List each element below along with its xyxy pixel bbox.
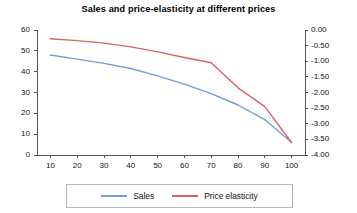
x-axis-tick-label: 30 — [91, 161, 117, 170]
chart-container: Sales and price-elasticity at different … — [0, 0, 357, 213]
y-axis-left-tick-label: 30 — [6, 88, 30, 97]
y-axis-right-tick-label: -2.50 — [311, 103, 345, 112]
y-axis-right-tick-label: 0.00 — [311, 25, 345, 34]
legend-item[interactable]: Sales — [101, 191, 154, 201]
chart-legend: SalesPrice elasticity — [66, 184, 293, 208]
x-axis-tick-label: 60 — [171, 161, 197, 170]
y-axis-right-tick-label: -0.50 — [311, 41, 345, 50]
x-axis-tick-label: 20 — [64, 161, 90, 170]
y-axis-right-tick-label: -2.00 — [311, 88, 345, 97]
y-axis-left-tick-label: 0 — [6, 150, 30, 159]
legend-swatch-icon — [101, 195, 127, 197]
x-axis-tick-label: 90 — [252, 161, 278, 170]
y-axis-right-tick-label: -3.00 — [311, 119, 345, 128]
x-axis-tick-label: 100 — [279, 161, 305, 170]
legend-label: Price elasticity — [204, 191, 258, 201]
x-axis-tick-label: 80 — [225, 161, 251, 170]
x-axis-tick-label: 10 — [37, 161, 63, 170]
x-axis-tick-label: 50 — [145, 161, 171, 170]
series-line-price-elasticity — [50, 39, 291, 143]
series-line-sales — [50, 55, 291, 143]
y-axis-right-tick-label: -4.00 — [311, 150, 345, 159]
series-group — [50, 39, 291, 143]
y-axis-left-tick-label: 10 — [6, 129, 30, 138]
legend-item[interactable]: Price elasticity — [172, 191, 258, 201]
axes-group — [34, 30, 308, 158]
y-axis-left-tick-label: 40 — [6, 67, 30, 76]
y-axis-left-tick-label: 60 — [6, 25, 30, 34]
x-axis-tick-label: 70 — [198, 161, 224, 170]
y-axis-right-tick-label: -3.50 — [311, 134, 345, 143]
chart-plot-area — [0, 0, 357, 213]
y-axis-right-tick-label: -1.00 — [311, 56, 345, 65]
y-axis-left-tick-label: 50 — [6, 46, 30, 55]
x-axis-tick-label: 40 — [118, 161, 144, 170]
y-axis-left-tick-label: 20 — [6, 108, 30, 117]
legend-swatch-icon — [172, 195, 198, 197]
y-axis-right-tick-label: -1.50 — [311, 72, 345, 81]
legend-label: Sales — [133, 191, 154, 201]
